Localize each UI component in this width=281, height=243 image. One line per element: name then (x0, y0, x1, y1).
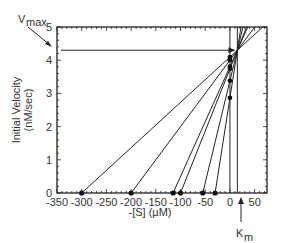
x-tick-label: -250 (95, 196, 117, 208)
x-axis: -350-300-250-200-150-100-50050 (46, 27, 265, 208)
y-tick-label: 3 (46, 87, 52, 99)
vmax-pointer-icon (228, 47, 235, 53)
x-tick-label: -50 (197, 196, 213, 208)
y-axis: 012345 (46, 21, 267, 199)
y-tick-label: 5 (46, 21, 52, 33)
svg-text:V: V (18, 13, 26, 25)
y-axis-label-line1: Initial Velocity (10, 76, 22, 143)
y-axis-label: Initial Velocity (nM/sec) (10, 76, 34, 143)
y-tick-label: 2 (46, 121, 52, 133)
direct-linear-plot: -350-300-250-200-150-100-50050 012345 -[… (0, 0, 281, 243)
x-tick-label: -100 (170, 196, 192, 208)
substrate-point (200, 190, 205, 195)
y-axis-label-line2: (nM/sec) (22, 89, 34, 132)
km-arrowhead-icon (238, 197, 244, 204)
y-tick-label: 4 (46, 54, 52, 66)
data-line (181, 0, 267, 193)
svg-text:K: K (236, 227, 244, 239)
svg-text:m: m (244, 231, 253, 243)
velocity-point (228, 58, 233, 63)
y-tick-label: 1 (46, 154, 52, 166)
substrate-point (171, 190, 176, 195)
data-line (131, 10, 267, 193)
plot-area (57, 0, 267, 196)
velocity-point (228, 95, 233, 100)
x-tick-label: 50 (249, 196, 261, 208)
svg-text:max: max (26, 16, 47, 28)
y-tick-label: 0 (46, 187, 52, 199)
velocity-point (228, 78, 233, 83)
x-axis-label: -[S] (µM) (129, 206, 172, 218)
velocity-point (228, 66, 233, 71)
x-tick-label: 0 (227, 196, 233, 208)
x-tick-label: -300 (71, 196, 93, 208)
